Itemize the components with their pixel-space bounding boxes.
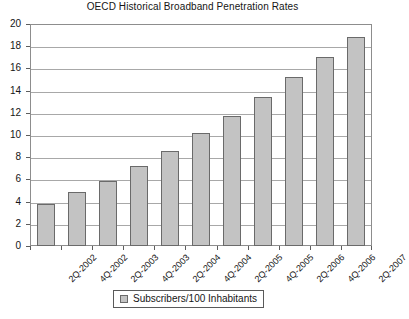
x-axis-tick-mark [279, 246, 280, 250]
bar [99, 181, 117, 246]
x-axis-tick-label: 4Q-2006 [347, 253, 378, 284]
bar [223, 116, 241, 246]
y-axis-tick-label: 4 [15, 197, 21, 207]
bars-layer [30, 24, 372, 246]
x-axis-tick-label: 2Q-2007 [378, 253, 409, 284]
x-axis-tick-mark [341, 246, 342, 250]
x-axis-tick-label: 2Q-2006 [316, 253, 347, 284]
y-axis-tick-label: 2 [15, 219, 21, 229]
y-axis-tick-label: 20 [10, 19, 21, 29]
bar [254, 97, 272, 246]
y-axis-tick-label: 8 [15, 152, 21, 162]
x-axis-tick-label: 4Q-2002 [98, 253, 129, 284]
y-axis-tick-label: 14 [10, 86, 21, 96]
bar [285, 77, 303, 246]
bar [68, 192, 86, 246]
x-axis-tick-mark [30, 246, 31, 250]
x-axis-tick-label: 2Q-2005 [253, 253, 284, 284]
chart-title: OECD Historical Broadband Penetration Ra… [0, 1, 385, 12]
x-axis-tick-mark [217, 246, 218, 250]
x-axis-tick-mark [154, 246, 155, 250]
x-axis-tick-label: 4Q-2003 [160, 253, 191, 284]
legend-swatch-icon [120, 295, 128, 303]
bar [192, 133, 210, 246]
x-axis-tick-mark [123, 246, 124, 250]
bar [130, 166, 148, 246]
y-axis-tick-label: 18 [10, 41, 21, 51]
x-axis-tick-mark [61, 246, 62, 250]
x-axis-tick-label: 2Q-2003 [129, 253, 160, 284]
bar [161, 151, 179, 246]
x-axis-tick-mark [92, 246, 93, 250]
x-axis-tick-mark [248, 246, 249, 250]
bar [347, 37, 365, 246]
y-axis-tick-label: 12 [10, 108, 21, 118]
legend-label: Subscribers/100 Inhabitants [133, 294, 257, 304]
chart-legend: Subscribers/100 Inhabitants [113, 290, 264, 308]
x-axis-tick-mark [310, 246, 311, 250]
x-axis-tick-label: 2Q-2004 [191, 253, 222, 284]
y-axis-tick-label: 10 [10, 130, 21, 140]
y-axis-tick-label: 6 [15, 174, 21, 184]
x-axis-tick-label: 2Q-2002 [67, 253, 98, 284]
bar [316, 57, 334, 246]
y-axis-tick-label: 0 [15, 241, 21, 251]
x-axis-tick-label: 4Q-2004 [222, 253, 253, 284]
y-axis: 02468101214161820 [0, 24, 26, 246]
x-axis-tick-mark [185, 246, 186, 250]
y-axis-tick-label: 16 [10, 63, 21, 73]
x-axis-tick-label: 4Q-2005 [284, 253, 315, 284]
x-axis-tick-mark [371, 246, 372, 250]
bar [37, 204, 55, 246]
